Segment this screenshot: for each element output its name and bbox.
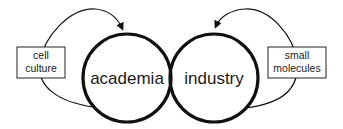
cell-culture-box: cell culture	[17, 47, 65, 78]
small-molecules-box: small molecules	[268, 47, 326, 78]
industry-label: industry	[184, 69, 244, 88]
feedback-loop-diagram: academia industry cell culture small mol…	[0, 0, 343, 129]
cell-culture-line-1: cell	[33, 49, 49, 61]
industry-node: industry	[170, 34, 258, 122]
small-molecules-line-2: molecules	[273, 62, 320, 74]
academia-node: academia	[83, 34, 171, 122]
small-molecules-line-1: small	[285, 49, 310, 61]
academia-label: academia	[90, 69, 164, 88]
cell-culture-line-2: culture	[25, 62, 57, 74]
